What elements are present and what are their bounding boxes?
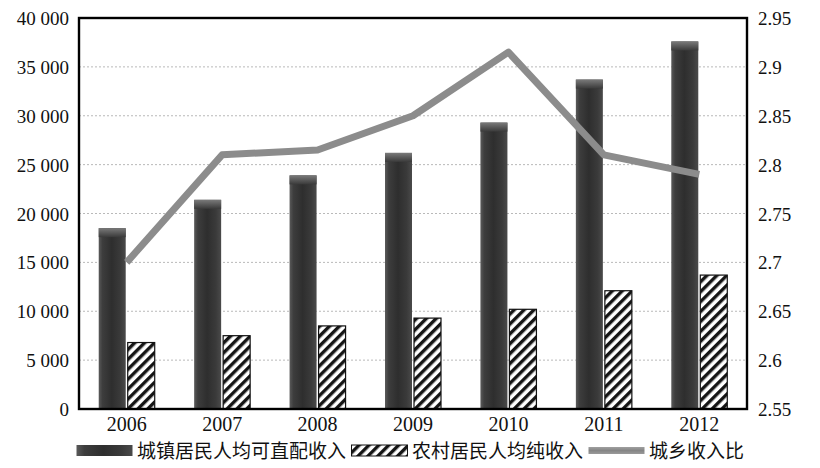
bar-rural	[319, 326, 346, 409]
income-comparison-chart: 05 00010 00015 00020 00025 00030 00035 0…	[0, 0, 820, 468]
right-axis-tick: 2.7	[758, 252, 782, 273]
x-axis-tick: 2008	[298, 413, 338, 435]
left-axis-tick: 5 000	[26, 350, 69, 371]
chart-legend: 城镇居民人均可直配收入农村居民人均纯收入城乡收入比	[77, 440, 744, 462]
right-axis-tick: 2.85	[758, 106, 791, 127]
left-axis-tick: 15 000	[17, 252, 69, 273]
bar-urban	[385, 153, 412, 409]
right-axis-tick: 2.65	[758, 301, 791, 322]
bar-rural	[509, 309, 536, 409]
left-axis-tick: 20 000	[17, 204, 69, 225]
bar-urban-cap	[385, 153, 412, 162]
bar-urban	[671, 41, 698, 409]
legend-swatch-ratio	[589, 447, 645, 454]
right-axis-tick: 2.95	[758, 8, 791, 29]
legend-label: 城乡收入比	[649, 440, 744, 462]
x-axis-tick: 2007	[202, 413, 242, 435]
chart-canvas: 05 00010 00015 00020 00025 00030 00035 0…	[0, 0, 820, 468]
legend-label: 农村居民人均纯收入	[412, 440, 583, 462]
bar-urban-cap	[480, 123, 507, 132]
left-axis-tick: 40 000	[17, 8, 69, 29]
legend-swatch-urban	[77, 445, 133, 456]
x-axis-tick: 2009	[393, 413, 433, 435]
left-axis-tick: 10 000	[17, 301, 69, 322]
bar-urban-cap	[576, 80, 603, 89]
bar-rural	[128, 343, 155, 409]
right-axis-tick: 2.55	[758, 399, 791, 420]
bar-rural	[700, 275, 727, 409]
left-axis-tick: 35 000	[17, 57, 69, 78]
x-axis-tick: 2012	[679, 413, 719, 435]
bar-urban	[480, 123, 507, 409]
bar-urban	[194, 200, 221, 409]
x-axis-tick: 2011	[584, 413, 623, 435]
left-axis-tick: 25 000	[17, 155, 69, 176]
right-axis-tick: 2.75	[758, 204, 791, 225]
bar-rural	[605, 291, 632, 409]
bar-rural	[223, 336, 250, 409]
bar-urban-cap	[290, 175, 317, 184]
left-axis-tick: 0	[60, 399, 70, 420]
bar-urban	[290, 175, 317, 409]
left-axis-tick: 30 000	[17, 106, 69, 127]
legend-label: 城镇居民人均可直配收入	[137, 440, 346, 462]
bar-urban-cap	[99, 228, 126, 237]
right-axis-tick: 2.6	[758, 350, 782, 371]
bar-urban-cap	[671, 41, 698, 50]
x-axis-tick: 2010	[488, 413, 528, 435]
bar-urban	[99, 228, 126, 409]
legend-swatch-rural	[352, 445, 408, 456]
right-axis-tick: 2.8	[758, 155, 782, 176]
bar-urban-cap	[194, 200, 221, 209]
x-axis-tick: 2006	[107, 413, 147, 435]
bar-rural	[414, 318, 441, 409]
gridlines	[79, 67, 747, 360]
right-axis-tick: 2.9	[758, 57, 782, 78]
left-axis-tick-labels: 05 00010 00015 00020 00025 00030 00035 0…	[17, 8, 69, 420]
right-axis-tick-labels: 2.552.62.652.72.752.82.852.92.95	[758, 8, 791, 420]
x-axis-tick-labels: 2006200720082009201020112012	[107, 413, 720, 435]
